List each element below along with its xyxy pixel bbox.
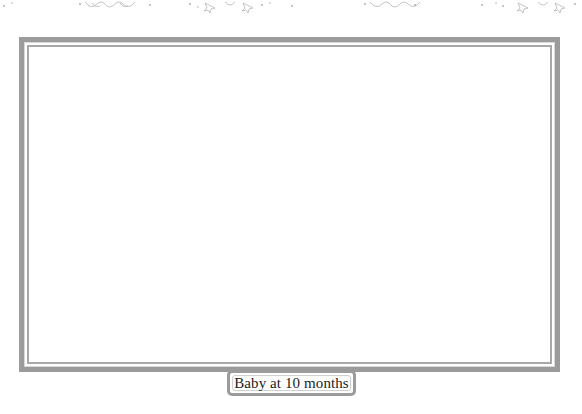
top-decoration-border [0, 0, 582, 14]
ornament-icon [0, 0, 582, 14]
photo-placeholder [27, 45, 552, 364]
caption-label: Baby at 10 months [227, 370, 356, 396]
caption-text: Baby at 10 months [234, 375, 349, 392]
